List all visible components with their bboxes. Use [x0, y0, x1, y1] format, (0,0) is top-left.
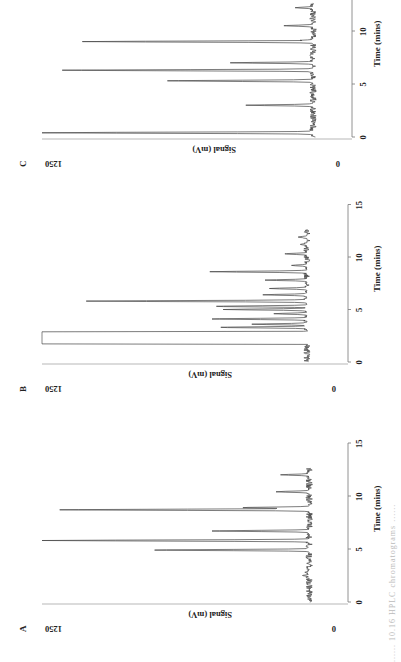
x-tick-label: 5 [354, 547, 364, 551]
x-tick-label: 10 [358, 28, 368, 37]
x-axis-label: Time (mins) [372, 485, 382, 532]
chromatogram-trace [42, 230, 310, 362]
x-tick-label: 0 [354, 360, 364, 364]
x-axis-label: Time (mins) [372, 20, 382, 67]
chromatogram-trace [42, 468, 313, 602]
chromatogram-panel-b: B 1250 0 Signal (mV) Time (mins) 051015 [0, 172, 401, 392]
x-tick-label: 10 [354, 254, 364, 263]
chromatogram-plot [0, 172, 401, 392]
x-tick-label: 5 [358, 82, 368, 86]
figure-caption: ...... 10.16 HPLC chromatograms ...... [388, 504, 397, 662]
chromatogram-panel-c: C 1250 0 Signal (mV) Time (mins) 051015 [0, 0, 401, 167]
x-tick-label: 5 [354, 308, 364, 312]
chromatogram-panel-a: A 1250 0 Signal (mV) Time (mins) 051015 [0, 412, 401, 632]
x-tick-label: 10 [354, 493, 364, 502]
x-tick-label: 0 [354, 600, 364, 604]
x-tick-label: 15 [354, 201, 364, 210]
x-tick-label: 0 [358, 135, 368, 139]
chromatogram-plot [0, 412, 401, 632]
figure-page: A 1250 0 Signal (mV) Time (mins) 051015 … [0, 0, 401, 662]
chromatogram-plot [0, 0, 401, 167]
chromatogram-trace [42, 3, 316, 137]
x-axis-label: Time (mins) [372, 245, 382, 292]
x-tick-label: 15 [354, 440, 364, 449]
